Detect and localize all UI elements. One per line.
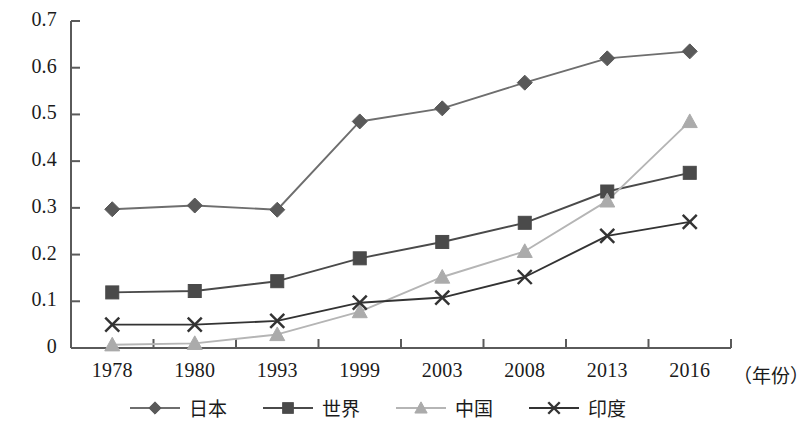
marker-square [282, 402, 293, 413]
axis-layer [71, 21, 731, 348]
series-layer [105, 44, 698, 351]
marker-diamond [435, 101, 450, 116]
x-axis-tick-label: 1978 [71, 359, 154, 382]
marker-square [188, 285, 201, 298]
series-line-印度 [112, 222, 690, 325]
marker-square [518, 216, 531, 229]
chart-legend: 日本世界中国印度 [0, 392, 753, 423]
marker-diamond [517, 75, 532, 90]
marker-square [271, 275, 284, 288]
marker-diamond [105, 202, 120, 217]
x-axis-tick-label: 2008 [484, 359, 567, 382]
legend-entry-日本[interactable]: 日本 [128, 394, 227, 421]
marker-diamond [600, 51, 615, 66]
x-axis-tick-label: 1993 [236, 359, 319, 382]
x-axis-tick-label: 2003 [401, 359, 484, 382]
y-axis-tick-label: 0.6 [0, 55, 57, 78]
legend-entry-世界[interactable]: 世界 [261, 394, 360, 421]
x-axis-tick-label: 1999 [319, 359, 402, 382]
y-axis-tick-label: 0.2 [0, 242, 57, 265]
legend-entry-中国[interactable]: 中国 [394, 394, 493, 421]
legend-marker-x-icon [527, 397, 581, 419]
y-axis-tick-label: 0.7 [0, 8, 57, 31]
legend-label: 中国 [455, 394, 493, 421]
marker-triangle [517, 244, 532, 258]
legend-label: 世界 [322, 394, 360, 421]
marker-square [106, 286, 119, 299]
y-axis-tick-label: 0 [0, 335, 57, 358]
marker-x [518, 270, 532, 284]
marker-triangle [682, 114, 697, 128]
y-axis-tick-label: 0.4 [0, 148, 57, 171]
x-axis-tick-label: 2016 [649, 359, 732, 382]
marker-square [683, 166, 696, 179]
y-axis-tick-label: 0.1 [0, 288, 57, 311]
y-axis-tick-label: 0.5 [0, 101, 57, 124]
x-axis-title: （年份） [733, 361, 801, 388]
marker-diamond [187, 198, 202, 213]
marker-diamond [148, 401, 160, 413]
y-axis-tick-label: 0.3 [0, 195, 57, 218]
marker-square [353, 252, 366, 265]
legend-entry-印度[interactable]: 印度 [527, 394, 626, 421]
legend-marker-square-icon [261, 397, 315, 419]
legend-label: 日本 [189, 394, 227, 421]
x-axis-tick-label: 2013 [566, 359, 649, 382]
marker-square [436, 235, 449, 248]
legend-marker-triangle-icon [394, 397, 448, 419]
marker-diamond [682, 44, 697, 59]
legend-label: 印度 [588, 394, 626, 421]
marker-triangle [352, 304, 367, 318]
legend-marker-diamond-icon [128, 397, 182, 419]
x-axis-tick-label: 1980 [154, 359, 237, 382]
